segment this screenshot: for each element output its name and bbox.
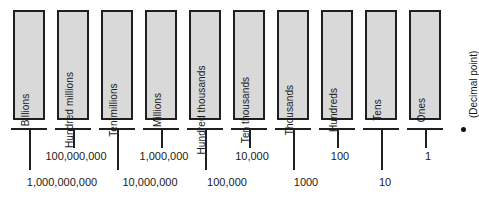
tick-long: [293, 130, 295, 170]
value-label-thousands: 1000: [294, 176, 318, 188]
value-label-ten-millions: 10,000,000: [122, 176, 177, 188]
column-label-hundreds: Hundreds: [328, 88, 339, 132]
tick-long: [205, 130, 207, 170]
place-value-column-billions: Billions: [13, 10, 45, 120]
place-value-column-ten-millions: Ten millions: [101, 10, 133, 120]
tick-short: [73, 130, 75, 148]
value-label-millions: 1,000,000: [140, 150, 189, 162]
tick-short: [161, 130, 163, 148]
tick-short: [249, 130, 251, 148]
value-label-hundred-thousands: 100,000: [207, 176, 247, 188]
value-label-hundred-millions: 100,000,000: [45, 150, 106, 162]
column-label-millions: Millions: [152, 93, 163, 127]
tick-short: [337, 130, 339, 148]
value-label-ones: 1: [425, 150, 431, 162]
place-value-column-tens: Tens: [365, 10, 397, 120]
tick-long: [29, 130, 31, 170]
column-label-ones: Ones: [416, 98, 427, 122]
place-value-column-hundred-millions: Hundred millions: [57, 10, 89, 120]
place-value-column-thousands: Thousands: [277, 10, 309, 120]
column-label-billions: Billions: [20, 94, 31, 126]
tick-long: [117, 130, 119, 170]
value-label-ten-thousands: 10,000: [235, 150, 269, 162]
value-label-billions: 1,000,000,000: [27, 176, 97, 188]
value-label-hundreds: 100: [331, 150, 349, 162]
place-value-column-hundreds: Hundreds: [321, 10, 353, 120]
place-value-column-ones: Ones: [409, 10, 441, 120]
decimal-point-dot-icon: [461, 127, 466, 132]
place-value-column-ten-thousands: Ten thousands: [233, 10, 265, 120]
tick-long: [381, 130, 383, 170]
value-label-tens: 10: [379, 176, 391, 188]
column-label-tens: Tens: [372, 99, 383, 121]
place-value-column-hundred-thousands: Hundred thousands: [189, 10, 221, 120]
place-value-column-millions: Millions: [145, 10, 177, 120]
decimal-point-label: (Decimal point): [468, 51, 479, 118]
tick-short: [425, 130, 427, 148]
